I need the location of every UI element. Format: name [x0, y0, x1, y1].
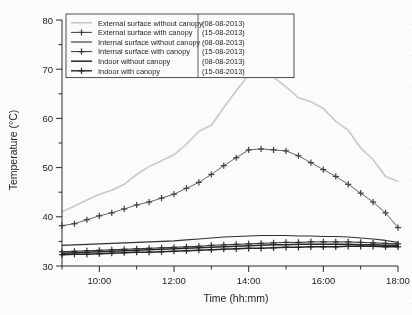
legend-item: External surface without canopy(08-08-20… [71, 19, 245, 28]
legend-item: Indoor with canopy(15-08-2013) [71, 67, 245, 76]
legend-box: External surface without canopy(08-08-20… [66, 14, 294, 78]
legend-date: (08-08-2013) [202, 57, 245, 66]
legend-item: Indoor without canopy(08-08-2013) [71, 57, 245, 66]
legend-label: External surface with canopy [98, 28, 193, 37]
temperature-time-chart: 30405060708010:0012:0014:0016:0018:00 Ex… [0, 0, 412, 315]
y-tick-label: 60 [42, 113, 53, 124]
y-axis-label: Temperature (°C) [7, 110, 19, 191]
legend-date: (08-08-2013) [202, 38, 245, 47]
legend-item: Internal surface with canopy(15-08-2013) [71, 47, 245, 56]
legend-item: Internal surface without canopy(08-08-20… [71, 38, 245, 47]
legend-date: (15-08-2013) [202, 28, 245, 37]
legend-label: Internal surface with canopy [98, 47, 190, 56]
legend-date: (15-08-2013) [202, 67, 245, 76]
x-tick-label: 18:00 [386, 275, 410, 286]
legend-label: Internal surface without canopy [98, 38, 201, 47]
y-tick-label: 30 [42, 261, 53, 272]
legend-date: (08-08-2013) [202, 19, 245, 28]
legend-label: External surface without canopy [98, 19, 203, 28]
legend-label: Indoor with canopy [98, 67, 160, 76]
y-tick-label: 50 [42, 162, 53, 173]
x-tick-label: 10:00 [87, 275, 111, 286]
x-axis-label: Time (hh:mm) [204, 292, 269, 304]
x-tick-label: 16:00 [311, 275, 335, 286]
chart-canvas: 30405060708010:0012:0014:0016:0018:00 Ex… [0, 0, 412, 315]
y-tick-label: 80 [42, 15, 53, 26]
legend-item: External surface with canopy(15-08-2013) [71, 28, 245, 37]
x-tick-label: 12:00 [162, 275, 186, 286]
y-tick-label: 40 [42, 211, 53, 222]
legend-label: Indoor without canopy [98, 57, 171, 66]
x-tick-label: 14:00 [237, 275, 261, 286]
legend-date: (15-08-2013) [202, 47, 245, 56]
y-tick-label: 70 [42, 64, 53, 75]
